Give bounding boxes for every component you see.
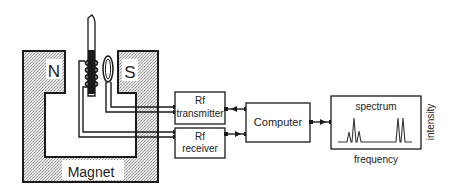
magnet-label: Magnet bbox=[68, 164, 115, 180]
computer-label: Computer bbox=[254, 116, 303, 128]
rf-receiver-line1: Rf bbox=[195, 131, 205, 142]
sample-tube bbox=[88, 15, 95, 96]
rf-transmitter-line2: transmitter bbox=[176, 108, 224, 119]
nmr-diagram: N S Magnet Rf transmitter Rf recei bbox=[0, 0, 459, 191]
south-pole-label: S bbox=[124, 63, 135, 82]
north-pole-label: N bbox=[48, 62, 60, 81]
rf-receiver-line2: receiver bbox=[182, 143, 218, 154]
arrow-right-icon bbox=[320, 119, 326, 125]
receiver-loop bbox=[103, 56, 113, 82]
arrow-computer-to-spectrum bbox=[309, 119, 333, 125]
spectrum-label: spectrum bbox=[355, 101, 396, 112]
arrow-receiver-to-computer bbox=[224, 131, 248, 137]
arrow-computer-to-transmitter bbox=[224, 106, 248, 112]
intensity-axis-label: intensity bbox=[425, 104, 436, 141]
arrow-right-icon bbox=[235, 131, 241, 137]
frequency-axis-label: frequency bbox=[354, 154, 398, 165]
rf-transmitter-line1: Rf bbox=[195, 95, 205, 106]
arrow-left-icon bbox=[231, 106, 237, 112]
